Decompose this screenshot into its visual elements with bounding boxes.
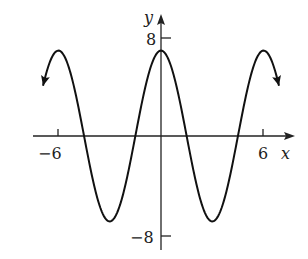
y-tick-label-neg8: −8 (130, 228, 154, 247)
y-axis-label: y (143, 8, 154, 27)
y-tick-label-8: 8 (146, 30, 156, 49)
cosine-graph: −6 6 x 8 −8 y (0, 0, 308, 259)
x-tick-label-6: 6 (258, 144, 268, 163)
x-axis-label: x (281, 144, 290, 163)
x-tick-label-neg6: −6 (38, 144, 62, 163)
curve-start-arrow-icon (39, 75, 50, 87)
curve-end-arrow-icon (272, 75, 283, 87)
